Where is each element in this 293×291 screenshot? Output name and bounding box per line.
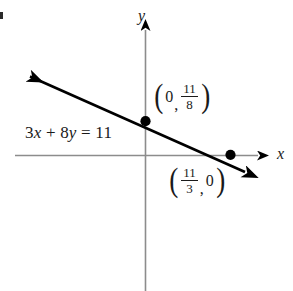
equation-coefficient-y: 8	[60, 123, 69, 142]
graph-figure: y x 3x + 8y = 11 ( 0 , 11 8 ) ( 11 3 ,	[0, 0, 293, 291]
y-intercept-x-value: 0	[165, 89, 173, 105]
fraction-numerator: 11	[181, 82, 198, 96]
equation-var-x: x	[34, 123, 42, 142]
equation-constant: 11	[95, 123, 112, 142]
y-intercept-point	[140, 116, 150, 126]
x-intercept-label: ( 11 3 , 0 )	[168, 166, 226, 196]
equation-label: 3x + 8y = 11	[25, 124, 112, 141]
equation-coefficient-x: 3	[25, 123, 34, 142]
fraction-numerator: 11	[181, 166, 198, 180]
fraction-denominator: 8	[184, 97, 195, 111]
x-intercept-y-value: 0	[206, 173, 214, 189]
coord-comma: ,	[173, 97, 180, 113]
close-paren: )	[201, 83, 210, 110]
equation-plus: +	[46, 123, 56, 142]
fraction-denominator: 3	[184, 181, 195, 195]
close-paren: )	[216, 167, 225, 194]
x-axis-label: x	[277, 146, 284, 162]
y-intercept-fraction: 11 8	[180, 82, 199, 112]
graph-canvas	[0, 0, 293, 291]
equation-var-y: y	[69, 123, 77, 142]
open-paren: (	[154, 83, 163, 110]
x-intercept-point	[225, 150, 235, 160]
y-axis-label: y	[138, 8, 145, 24]
equation-equals: =	[81, 123, 91, 142]
y-intercept-label: ( 0 , 11 8 )	[153, 82, 211, 112]
coord-comma: ,	[199, 181, 206, 197]
x-intercept-fraction: 11 3	[180, 166, 199, 196]
open-paren: (	[169, 167, 178, 194]
